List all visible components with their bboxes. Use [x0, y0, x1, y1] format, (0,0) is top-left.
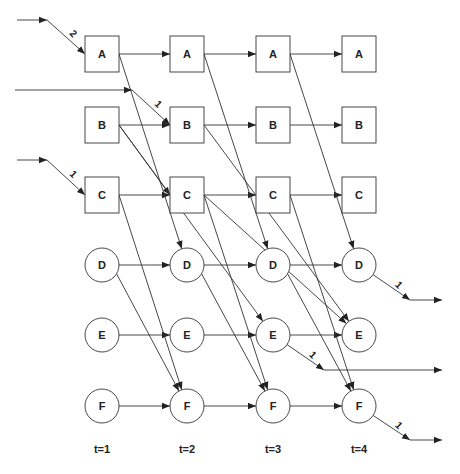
- node-label: B: [183, 119, 191, 131]
- node-label: A: [355, 48, 363, 60]
- node-label: E: [98, 329, 105, 341]
- node-C-t1: C: [85, 177, 119, 213]
- node-label: C: [183, 189, 191, 201]
- node-label: C: [269, 189, 277, 201]
- edge-C0-to-F1: [119, 195, 182, 390]
- input-arc-A: 2: [17, 20, 85, 54]
- edge-D2-to-F3: [287, 274, 350, 392]
- node-label: B: [269, 119, 277, 131]
- node-label: C: [355, 189, 363, 201]
- node-A-t2: A: [170, 36, 204, 72]
- edge-A1-to-D2: [204, 54, 268, 249]
- input-flow-label: 2: [68, 28, 80, 40]
- node-E-t4: E: [342, 318, 376, 352]
- node-label: D: [355, 259, 363, 271]
- node-A-t3: A: [256, 36, 290, 72]
- node-E-t2: E: [170, 318, 204, 352]
- node-C-t3: C: [256, 177, 290, 213]
- time-label-t4: t=4: [351, 443, 368, 455]
- edge-A0-to-D1: [119, 54, 182, 249]
- node-B-t1: B: [85, 107, 119, 143]
- node-label: E: [183, 329, 190, 341]
- node-B-t4: B: [342, 107, 376, 143]
- edge-C2-to-F3: [290, 195, 354, 390]
- node-D-t1: D: [85, 248, 119, 282]
- node-label: D: [98, 259, 106, 271]
- node-B-t2: B: [170, 107, 204, 143]
- time-expanded-network-diagram: 211111 ABCDEFABCDEFABCDEFABCDEF t=1t=2t=…: [0, 0, 460, 474]
- node-label: A: [269, 48, 277, 60]
- node-label: E: [355, 329, 362, 341]
- node-F-t2: F: [170, 389, 204, 423]
- input-output-arcs: 211111: [15, 20, 442, 440]
- input-flow-label: 1: [68, 168, 80, 180]
- node-label: F: [184, 400, 191, 412]
- node-label: C: [98, 189, 106, 201]
- node-F-t3: F: [256, 389, 290, 423]
- node-E-t1: E: [85, 318, 119, 352]
- time-labels: t=1t=2t=3t=4: [94, 443, 368, 455]
- node-F-t4: F: [342, 389, 376, 423]
- edge-D0-to-F1: [116, 274, 179, 391]
- node-E-t3: E: [256, 318, 290, 352]
- node-label: F: [356, 400, 363, 412]
- node-label: E: [269, 329, 276, 341]
- output-arc-D: 1: [373, 275, 442, 300]
- time-label-t2: t=2: [179, 443, 195, 455]
- node-label: B: [355, 119, 363, 131]
- node-label: F: [99, 400, 106, 412]
- edge-B0-to-E2: [119, 125, 263, 321]
- node-label: D: [269, 259, 277, 271]
- node-B-t3: B: [256, 107, 290, 143]
- node-label: B: [98, 119, 106, 131]
- node-D-t2: D: [170, 248, 204, 282]
- input-flow-label: 1: [153, 98, 165, 110]
- time-label-t3: t=3: [265, 443, 281, 455]
- input-arc-C: 1: [17, 160, 85, 195]
- node-label: D: [183, 259, 191, 271]
- node-C-t2: C: [170, 177, 204, 213]
- edge-D1-to-F2: [201, 274, 264, 392]
- node-label: A: [183, 48, 191, 60]
- time-label-t1: t=1: [94, 443, 110, 455]
- node-D-t3: D: [256, 248, 290, 282]
- node-C-t4: C: [342, 177, 376, 213]
- node-A-t4: A: [342, 36, 376, 72]
- nodes-layer: ABCDEFABCDEFABCDEFABCDEF: [85, 36, 376, 423]
- edge-A2-to-D3: [290, 54, 354, 249]
- node-label: A: [98, 48, 106, 60]
- output-arc-F: 1: [373, 415, 442, 440]
- node-label: F: [270, 400, 277, 412]
- node-F-t1: F: [85, 389, 119, 423]
- edge-B1-to-E3: [204, 125, 349, 321]
- node-D-t4: D: [342, 248, 376, 282]
- node-A-t1: A: [85, 36, 119, 72]
